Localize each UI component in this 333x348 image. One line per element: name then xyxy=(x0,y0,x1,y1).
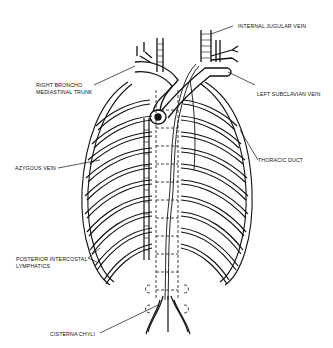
label-cisterna-chyli: CISTERNA CHYLI xyxy=(50,331,95,338)
label-internal-jugular-vein: INTERNAL JUGULAR VEIN xyxy=(238,23,306,30)
anatomy-line-art xyxy=(0,0,333,348)
lymphatic-diagram: INTERNAL JUGULAR VEIN RIGHT BRONCHO MEDI… xyxy=(0,0,333,348)
cisterna-chyli-drawing xyxy=(146,296,190,334)
label-posterior-intercostal-line2: LYMPHATICS xyxy=(16,263,50,270)
label-posterior-intercostal-line1: POSTERIOR INTERCOSTAL xyxy=(16,256,87,263)
label-thoracic-duct: THORACIC DUCT xyxy=(258,157,303,164)
ribs-right xyxy=(181,100,248,284)
label-azygous-vein: AZYGOUS VEIN xyxy=(15,165,56,172)
label-left-subclavian-vein: LEFT SUBCLAVIAN VEIN xyxy=(257,91,320,98)
vertebral-column xyxy=(146,90,189,313)
great-veins xyxy=(135,30,238,124)
ribs-left xyxy=(85,100,152,284)
label-right-broncho-line1: RIGHT BRONCHO xyxy=(36,82,82,89)
azygous-vein-drawing xyxy=(144,118,149,260)
label-right-broncho-line2: MEDIASTINAL TRUNK xyxy=(36,89,92,96)
